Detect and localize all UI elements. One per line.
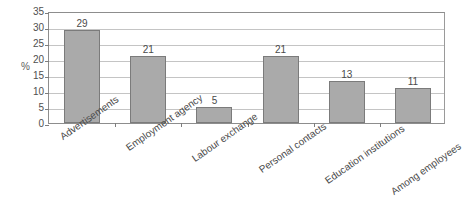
y-tick-mark bbox=[45, 13, 49, 14]
gridline bbox=[49, 29, 444, 30]
y-tick-mark bbox=[45, 29, 49, 30]
y-tick-label: 15 bbox=[18, 71, 44, 81]
bar-value-label: 13 bbox=[327, 70, 367, 80]
bar bbox=[130, 56, 166, 123]
bar-value-label: 21 bbox=[128, 45, 168, 55]
bar-value-label: 11 bbox=[393, 77, 433, 87]
bar bbox=[263, 56, 299, 123]
x-axis-category-labels: AdvertisementsEmployment agencyLabour ex… bbox=[0, 124, 469, 224]
bar bbox=[329, 81, 365, 123]
bar bbox=[395, 88, 431, 123]
gridline bbox=[49, 93, 444, 94]
y-tick-mark bbox=[45, 77, 49, 78]
y-tick-label: 5 bbox=[18, 103, 44, 113]
y-tick-label: 30 bbox=[18, 23, 44, 33]
y-tick-mark bbox=[45, 61, 49, 62]
y-tick-label: 25 bbox=[18, 39, 44, 49]
bar-chart-figure: % 35 30 25 20 15 10 5 0 29215211311 Adve… bbox=[0, 0, 469, 224]
bar-value-label: 29 bbox=[62, 19, 102, 29]
x-category-label: Education institutions bbox=[323, 123, 407, 186]
y-tick-mark bbox=[45, 45, 49, 46]
gridline bbox=[49, 45, 444, 46]
y-tick-label: 10 bbox=[18, 87, 44, 97]
bar-value-label: 21 bbox=[261, 45, 301, 55]
x-category-label: Personal contacts bbox=[256, 120, 327, 175]
y-tick-mark bbox=[45, 109, 49, 110]
y-tick-mark bbox=[45, 93, 49, 94]
y-tick-label: 20 bbox=[18, 55, 44, 65]
x-category-label: Among employees bbox=[389, 140, 463, 197]
y-tick-label: 35 bbox=[18, 7, 44, 17]
bar bbox=[196, 107, 232, 123]
gridline bbox=[49, 77, 444, 78]
gridline bbox=[49, 61, 444, 62]
